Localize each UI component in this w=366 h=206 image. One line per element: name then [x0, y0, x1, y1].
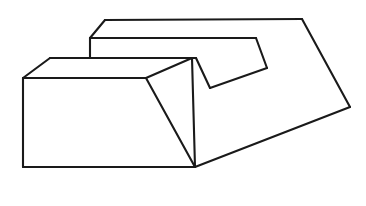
stepped-block-line-drawing: Stepped block line drawing — [0, 0, 366, 206]
edge-upper-top-ridge — [105, 19, 302, 20]
